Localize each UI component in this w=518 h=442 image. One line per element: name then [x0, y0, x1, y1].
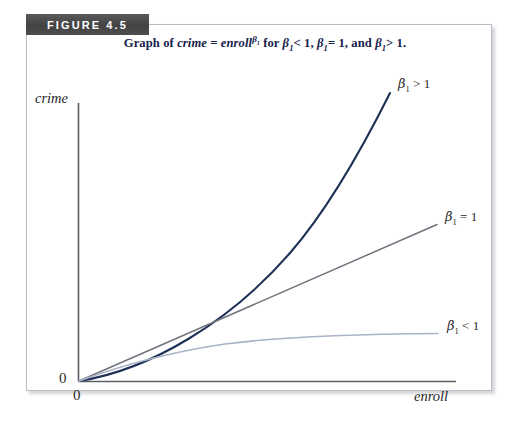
caption-var-enroll: enroll [221, 36, 252, 50]
beta-symbol-eq: β [445, 209, 453, 224]
caption-cond1-rel: < 1 [294, 36, 311, 50]
origin-label-x: 0 [73, 387, 81, 404]
beta-symbol-gt: β [398, 76, 406, 91]
beta-relation-eq: = 1 [460, 209, 477, 224]
beta-relation-gt: > 1 [413, 76, 430, 91]
caption-middle: for [260, 36, 283, 50]
curve-label-beta-greater-than-one: β1 > 1 [398, 76, 430, 94]
figure-number-banner: FIGURE 4.5 [26, 14, 149, 35]
caption-cond2-rel: = 1 [328, 36, 345, 50]
beta-relation-lt: < 1 [462, 318, 479, 333]
beta-subscript-gt: 1 [406, 84, 410, 94]
curve-label-beta-equals-one: β1 = 1 [445, 209, 477, 227]
figure-root: FIGURE 4.5 Graph of crime = enrollβ1 for… [0, 0, 518, 442]
caption-cond3-rel: > 1 [386, 36, 403, 50]
caption-exponent: β1 [252, 34, 260, 44]
x-axis-label: enroll [414, 388, 448, 405]
beta-subscript-eq: 1 [453, 217, 457, 227]
caption-equals: = [207, 36, 221, 50]
beta-subscript-lt: 1 [455, 326, 459, 336]
caption-prefix: Graph of [124, 36, 177, 50]
caption-sep2: , and [345, 36, 375, 50]
caption-var-crime: crime [177, 36, 207, 50]
curve-label-beta-less-than-one: β1 < 1 [447, 318, 479, 336]
figure-caption: Graph of crime = enrollβ1 for β1< 1, β1=… [60, 34, 470, 53]
origin-label-y: 0 [59, 370, 67, 387]
y-axis-label: crime [35, 90, 68, 107]
caption-period: . [403, 36, 406, 50]
beta-symbol-lt: β [447, 318, 455, 333]
